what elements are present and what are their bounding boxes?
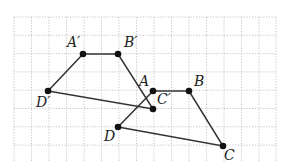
- point-b-prime: [115, 51, 122, 58]
- label-a-prime: A′: [65, 34, 81, 50]
- grid: [14, 17, 276, 162]
- quadrilateral-a-primeb-primec-primed-prime: [48, 54, 153, 109]
- point-b: [186, 88, 193, 95]
- label-a: A: [137, 73, 149, 89]
- label-b-prime: B′: [123, 34, 138, 50]
- point-d: [115, 124, 122, 131]
- grid-diagram: ABCDA′B′C′D′: [0, 0, 283, 162]
- point-c-prime: [150, 106, 157, 113]
- label-c-prime: C′: [157, 91, 172, 107]
- point-a-prime: [80, 51, 87, 58]
- quadrilaterals: [48, 54, 223, 146]
- label-d-prime: D′: [35, 94, 51, 110]
- label-b: B: [193, 73, 204, 89]
- label-d: D: [103, 128, 115, 144]
- label-c: C: [224, 147, 235, 162]
- point-a: [150, 88, 157, 95]
